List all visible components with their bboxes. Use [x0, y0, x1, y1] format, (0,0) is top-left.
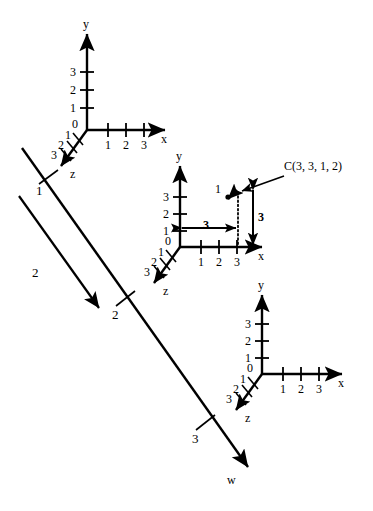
diagram-canvas	[0, 0, 373, 511]
offset-arrow-line	[19, 196, 99, 308]
point-c-label: C(3, 3, 1, 2)	[284, 160, 342, 172]
frame-w3-z-axis-label: z	[245, 412, 250, 424]
frame-w2-y-tick-label-2: 2	[163, 208, 169, 220]
x-dimension-label: 3	[203, 219, 209, 231]
frame-w1-z-tick-label-2: 2	[58, 139, 64, 151]
frame-w3-x-axis-label: x	[338, 377, 344, 389]
point-c-construction	[182, 176, 284, 245]
frame-w1-y-tick-label-1: 1	[70, 102, 76, 114]
offset-arrow-label: 2	[32, 266, 39, 279]
frame-w1-origin-label: 0	[72, 118, 78, 130]
frame-w2-x-tick-label-2: 2	[216, 256, 222, 268]
y-dimension-label: 3	[258, 211, 264, 223]
frame-w2-y-axis-label: y	[176, 150, 182, 162]
w-tick-label-3: 3	[192, 432, 199, 445]
offset-arrow-group	[19, 196, 99, 308]
z-dimension-label: 1	[215, 183, 221, 195]
frame-w3-z-tick-label-2: 2	[233, 383, 239, 395]
w-axis-label: w	[227, 474, 236, 486]
frame-w1-x-tick-label-1: 1	[105, 139, 111, 151]
frame-w1-y-tick-label-2: 2	[70, 84, 76, 96]
frame-w2-y-tick-label-3: 3	[163, 191, 169, 203]
frame-w1-y-axis-label: y	[83, 18, 89, 30]
w-tick-3-mark	[196, 415, 215, 430]
frame-w3-z-tick-label-3: 3	[226, 393, 232, 405]
frame-w3-y-tick-label-3: 3	[245, 318, 251, 330]
frame-w2-x-tick-label-1: 1	[198, 256, 204, 268]
frame-w2-z-tick-label-2: 2	[151, 256, 157, 268]
frame-w2-z-tick-label-1: 1	[158, 246, 164, 258]
frame-w3-y-axis-label: y	[258, 279, 264, 291]
frame-w1-z-tick-label-1: 1	[65, 129, 71, 141]
frame-w3-axes	[236, 295, 342, 410]
w-tick-label-2: 2	[112, 308, 119, 321]
four-dimensional-coordinate-diagram: 1 2 3 w 2 y 3 2 1 0 x 1 2 3 1 2 3 z y 3 …	[0, 0, 373, 511]
frame-w1-x-axis-label: x	[161, 133, 167, 145]
frame-w3-z-tick-label-1: 1	[240, 373, 246, 385]
frame-w1-y-tick-label-3: 3	[70, 66, 76, 78]
frame-w1-z-tick-label-3: 3	[51, 149, 57, 161]
point-c-marker	[225, 194, 230, 199]
frame-w3-x-tick-label-3: 3	[316, 383, 322, 395]
frame-w1-x-tick-label-2: 2	[123, 139, 129, 151]
frame-w1-x-tick-label-3: 3	[141, 139, 147, 151]
frame-w1-axes	[61, 34, 165, 166]
point-c-leader-line	[242, 176, 284, 191]
frame-w2-origin-label: 0	[165, 235, 171, 247]
frame-w1-z-axis-label: z	[70, 168, 75, 180]
frame-w3-origin-label: 0	[247, 362, 253, 374]
frame-w2-x-tick-label-3: 3	[234, 256, 240, 268]
w-tick-label-1: 1	[36, 184, 43, 197]
frame-w3-x-tick-label-2: 2	[298, 383, 304, 395]
frame-w2-z-tick-label-3: 3	[144, 266, 150, 278]
frame-w2-z-axis-label: z	[163, 285, 168, 297]
frame-w3-y-tick-label-2: 2	[245, 335, 251, 347]
frame-w3-x-tick-label-1: 1	[280, 383, 286, 395]
frame-w2-x-axis-label: x	[258, 250, 264, 262]
